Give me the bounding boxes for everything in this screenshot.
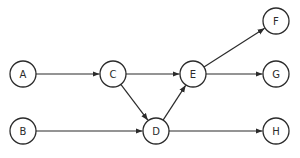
node-f: F [263, 8, 289, 34]
node-g: G [263, 61, 289, 87]
node-label: C [110, 69, 117, 80]
node-label: F [273, 16, 279, 27]
edge-d-e [163, 85, 186, 120]
node-label: H [272, 126, 280, 137]
node-label: B [20, 126, 27, 137]
node-label: G [272, 69, 280, 80]
node-c: C [100, 61, 126, 87]
node-label: D [152, 126, 160, 137]
edge-c-d [121, 84, 148, 120]
edge-e-f [204, 28, 265, 67]
node-d: D [143, 118, 169, 144]
graph-svg: ABCDEFGH [0, 0, 300, 158]
edges-layer [36, 28, 265, 131]
diagram-canvas: ABCDEFGH [0, 0, 300, 158]
nodes-layer: ABCDEFGH [10, 8, 289, 144]
node-a: A [10, 61, 36, 87]
node-label: E [190, 69, 196, 80]
node-e: E [180, 61, 206, 87]
node-label: A [20, 69, 27, 80]
node-h: H [263, 118, 289, 144]
node-b: B [10, 118, 36, 144]
